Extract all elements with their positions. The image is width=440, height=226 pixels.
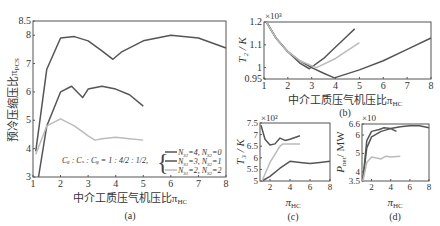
y-tick-label: 7.5 [247, 118, 259, 128]
series-d [363, 126, 429, 181]
y-axis-label-a: 预冷压缩压比πPCS [7, 58, 21, 142]
legend: NS1=4, NS2=0 NS1=3, NS2=1 NS1=2, NS2=2 [165, 148, 221, 176]
multiplier-d: ×10 [362, 113, 377, 123]
y-tick-label: 8 [26, 29, 31, 40]
y-tick-label: 0.95 [245, 73, 263, 84]
x-tick-label: 4 [288, 182, 293, 192]
x-tick-label: 4 [333, 80, 338, 91]
y-tick-label: 6 [254, 153, 259, 163]
chart-figure: 3456788.5 12345678 预冷压缩压比πPCS 中介工质压气机压比π… [0, 0, 440, 226]
x-tick-label: 6 [381, 80, 386, 91]
panel-d: 3.54566.6 2468 ×10 Pnet/ MW πHC (d) [334, 113, 432, 223]
x-tick-label: 4 [388, 182, 393, 192]
y-tick-label: 5 [254, 176, 259, 186]
x-tick-label: 5 [141, 178, 146, 189]
y-tick-label: 6 [356, 130, 361, 140]
series-line [36, 119, 144, 154]
plot-area-c [260, 123, 330, 181]
series-line [262, 161, 330, 181]
y-tick-label: 5.5 [247, 164, 259, 174]
x-tick-label: 8 [429, 80, 434, 91]
y-tick-label: 7 [26, 58, 31, 69]
series-b [266, 22, 431, 78]
x-tick-label: 3 [86, 178, 91, 189]
series-line [266, 22, 354, 69]
x-tick-label: 6 [308, 182, 313, 192]
series-line [36, 35, 226, 151]
caption-c: (c) [287, 211, 298, 223]
x-tick-label: 8 [224, 178, 229, 189]
x-tick-label: 2 [369, 182, 374, 192]
y-tick-label: 1.2 [250, 16, 263, 27]
panel-a: 3456788.5 12345678 预冷压缩压比πPCS 中介工质压气机压比π… [7, 15, 229, 222]
y-tick-label: 5 [26, 114, 31, 125]
x-tick-label: 2 [58, 178, 63, 189]
legend-brace: { [157, 149, 169, 175]
x-axis-label-a: 中介工质压气机压比πHC [73, 191, 188, 206]
caption-b: (b) [339, 107, 351, 119]
caption-d: (d) [389, 211, 401, 223]
y-tick-label: 6.5 [247, 141, 259, 151]
x-tick-label: 5 [357, 80, 362, 91]
x-tick-label: 4 [113, 178, 118, 189]
y-tick-label: 1 [257, 62, 262, 73]
y-tick-label: 3.5 [349, 176, 361, 186]
series-c [261, 125, 330, 181]
y-tick-label: 4 [356, 167, 361, 177]
multiplier-c: ×10² [261, 113, 278, 123]
y-tick-label: 8.5 [19, 15, 32, 26]
y-tick-label: 4 [26, 143, 31, 154]
panel-b: 0.9511.11.2 12345678 ×10³ T₂ / K 中介工质压气机… [236, 11, 434, 119]
x-tick-label: 6 [168, 178, 173, 189]
series-line [261, 125, 300, 145]
x-tick-label: 6 [408, 182, 413, 192]
x-tick-label: 3 [309, 80, 314, 91]
series-line [363, 126, 429, 179]
series-line [363, 128, 397, 179]
series-line [363, 156, 400, 181]
y-tick-label: 7 [254, 130, 259, 140]
x-tick-label: 7 [196, 178, 201, 189]
x-tick-label: 1 [262, 80, 267, 91]
x-axis-label-d: πHC [387, 196, 403, 210]
x-tick-label: 7 [405, 80, 410, 91]
x-tick-label: 8 [328, 182, 333, 192]
series-line [266, 22, 359, 68]
y-tick-label: 5 [356, 148, 361, 158]
ratio-annotation: Cₐ : Cₛ : Cᵩ = 1 : 4/2 : 1/2, [62, 156, 148, 165]
y-tick-label: 1.1 [250, 39, 263, 50]
y-axis-label-c: T₃ / K [234, 138, 246, 164]
plot-area-d [362, 124, 429, 181]
y-axis-label-b: T₂ / K [236, 36, 248, 62]
y-tick-label: 6.6 [349, 119, 361, 129]
y-axis-label-d: Pnet/ MW [334, 131, 348, 174]
x-tick-label: 2 [285, 80, 290, 91]
legend-item-3: NS1=2, NS2=2 [177, 166, 221, 176]
x-axis-label-c: πHC [285, 196, 301, 210]
y-tick-label: 6 [26, 86, 31, 97]
x-tick-label: 1 [31, 178, 36, 189]
x-tick-label: 2 [268, 182, 273, 192]
panel-c: 55.566.577.5 2468 ×10² T₃ / K πHC (c) [234, 113, 333, 223]
x-tick-label: 8 [427, 182, 432, 192]
multiplier-b: ×10³ [265, 11, 282, 21]
caption-a: (a) [124, 210, 135, 222]
x-axis-label-b: 中介工质压气机压比πHC [288, 93, 403, 108]
